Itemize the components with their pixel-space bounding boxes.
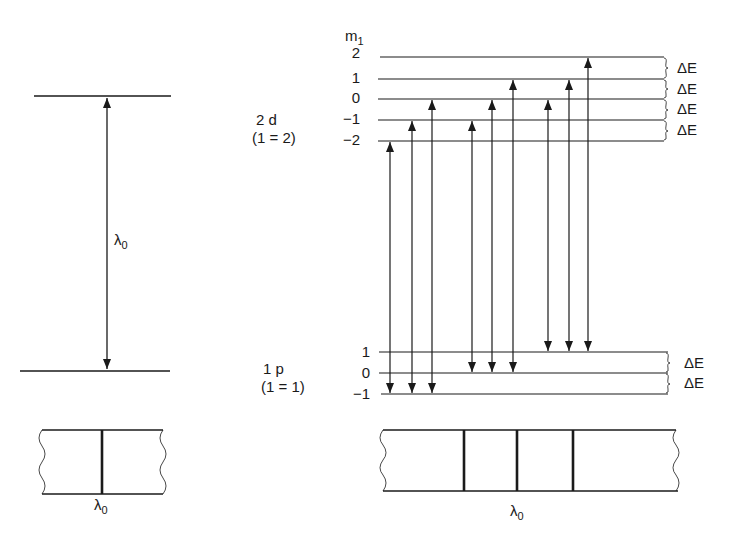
upper-split-levels	[378, 57, 612, 141]
upper-delta-e-1: ΔE	[677, 60, 697, 75]
lambda-symbol: λ	[114, 231, 122, 248]
upper-state-quantum: (1 = 2)	[252, 130, 296, 145]
upper-delta-e-4: ΔE	[677, 122, 697, 137]
lambda-symbol: λ	[94, 496, 102, 513]
lower-state-name: 1 p	[263, 361, 284, 376]
left-energy-levels	[20, 96, 171, 371]
right-spectrum	[380, 430, 679, 491]
upper-ml-label-minus2: −2	[330, 132, 360, 147]
upper-state-name: 2 d	[256, 112, 277, 127]
lambda-subscript: 0	[102, 504, 108, 516]
lower-split-levels	[379, 352, 668, 394]
upper-delta-e-3: ΔE	[677, 101, 697, 116]
upper-ml-label-minus1: −1	[330, 111, 360, 126]
lower-delta-e-1: ΔE	[684, 355, 704, 370]
lambda-symbol: λ	[510, 502, 518, 519]
lambda-subscript: 0	[518, 510, 524, 522]
zeeman-diagram	[0, 0, 737, 548]
upper-ml-label-2: 2	[330, 45, 360, 60]
transition-arrows	[390, 58, 588, 393]
lower-state-quantum: (1 = 1)	[261, 379, 305, 394]
lower-ml-label-1: 1	[340, 344, 370, 359]
lower-delta-e-2: ΔE	[684, 375, 704, 390]
left-transition-label: λ0	[114, 232, 128, 253]
upper-ml-label-1: 1	[330, 70, 360, 85]
ml-symbol: m	[345, 27, 358, 44]
upper-ml-label-0: 0	[330, 90, 360, 105]
upper-delta-e-2: ΔE	[677, 81, 697, 96]
lower-ml-label-minus1: −1	[340, 386, 370, 401]
right-spectrum-label: λ0	[510, 503, 524, 524]
left-spectrum	[39, 430, 166, 494]
lower-ml-label-0: 0	[340, 365, 370, 380]
left-spectrum-label: λ0	[94, 497, 108, 518]
lambda-subscript: 0	[122, 239, 128, 251]
upper-spacing-braces	[664, 58, 668, 140]
